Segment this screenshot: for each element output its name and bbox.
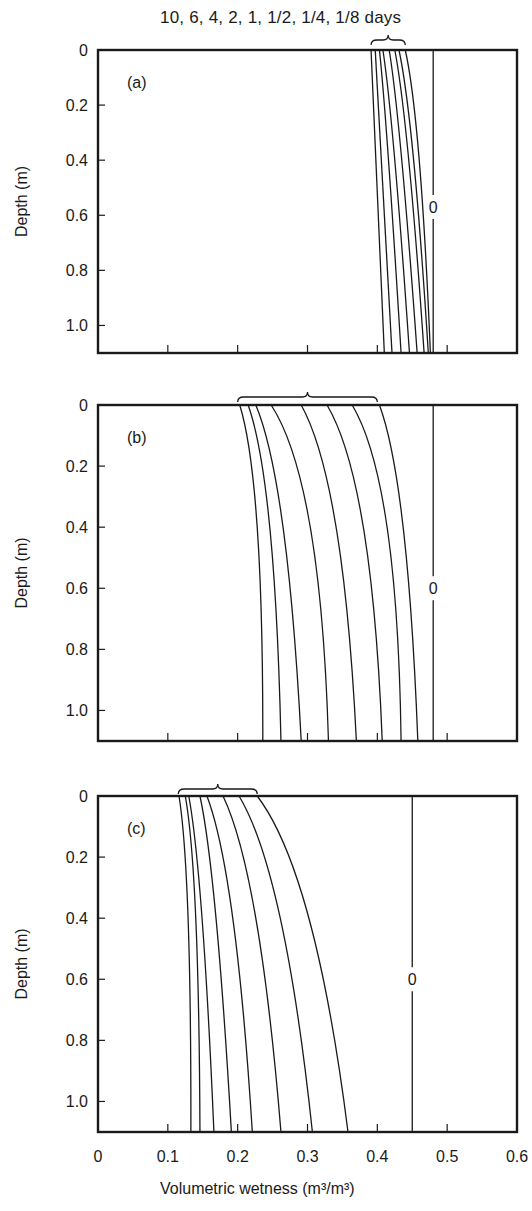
wetness-profile-curve [223,796,281,1132]
y-tick-label: 1.0 [66,702,88,719]
y-tick-label: 0 [79,788,88,805]
x-tick-label: 0 [94,1148,103,1165]
wetness-profile-curve [352,405,401,741]
y-tick-label: 1.0 [66,1093,88,1110]
x-tick-label: 0.4 [366,1148,388,1165]
zero-time-label: 0 [429,580,438,597]
wetness-profile-curve [395,50,424,353]
y-axis-label: Depth (m) [13,928,30,999]
x-tick-label: 0.2 [227,1148,249,1165]
x-tick-label: 0.6 [506,1148,528,1165]
wetness-profile-curve [327,405,382,741]
wetness-profile-curve [179,796,191,1132]
y-tick-label: 0.4 [66,910,88,927]
wetness-profile-curve [379,405,417,741]
wetness-profile-curve [239,796,312,1132]
y-tick-label: 1.0 [66,317,88,334]
y-tick-label: 0 [79,42,88,59]
curly-brace-icon [371,35,405,45]
y-tick-label: 0.4 [66,519,88,536]
wetness-depth-figure: 10, 6, 4, 2, 1, 1/2, 1/4, 1/8 days 00.20… [0,0,532,1211]
y-axis-label: Depth (m) [13,166,30,237]
y-tick-label: 0.6 [66,971,88,988]
days-legend-label: 10, 6, 4, 2, 1, 1/2, 1/4, 1/8 days [160,8,401,28]
panel-label: (c) [127,820,146,837]
wetness-profile-curve [185,796,200,1132]
y-tick-label: 0.2 [66,849,88,866]
panel-label: (b) [127,429,147,446]
panel-label: (a) [127,74,147,91]
y-tick-label: 0.8 [66,262,88,279]
y-tick-label: 0.6 [66,580,88,597]
x-tick-label: 0.3 [296,1148,318,1165]
y-tick-label: 0.6 [66,207,88,224]
y-tick-label: 0.2 [66,458,88,475]
x-axis-label: Volumetric wetness (m³/m³) [160,1180,355,1198]
panel-frame [98,796,517,1132]
curly-brace-icon [178,784,257,794]
y-axis-label: Depth (m) [13,537,30,608]
y-tick-label: 0.4 [66,152,88,169]
y-tick-label: 0.8 [66,641,88,658]
wetness-profile-curve [240,405,263,741]
wetness-profile-curve [257,796,348,1132]
plot-area: 00.20.40.60.81.0Depth (m)(a)000.20.40.60… [0,0,532,1211]
y-tick-label: 0 [79,397,88,414]
wetness-profile-curve [248,405,281,741]
panel-frame [98,405,517,741]
y-tick-label: 0.8 [66,1032,88,1049]
x-tick-label: 0.1 [157,1148,179,1165]
wetness-profile-curve [189,796,214,1132]
wetness-profile-curve [207,796,252,1132]
zero-time-label: 0 [429,199,438,216]
panel-frame [98,50,517,353]
x-tick-label: 0.5 [436,1148,458,1165]
y-tick-label: 0.2 [66,97,88,114]
curly-brace-icon [238,392,378,402]
zero-time-label: 0 [408,971,417,988]
